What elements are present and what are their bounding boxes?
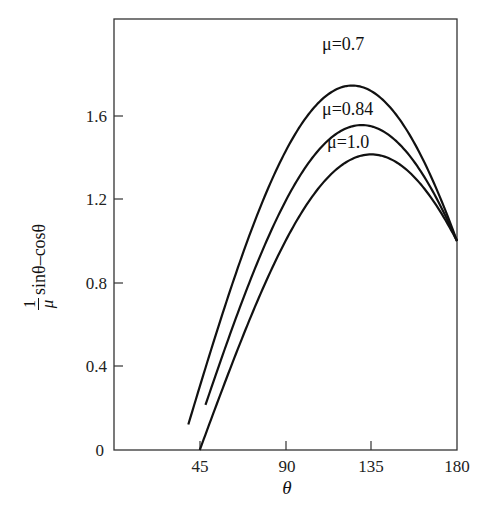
x-axis-ticks	[200, 441, 371, 450]
curve-label-mu-1.0: μ=1.0	[327, 132, 369, 152]
y-tick-1.6: 1.6	[86, 107, 107, 126]
curves-group	[188, 86, 457, 450]
y-axis-expression: sinθ–cosθ	[29, 224, 50, 295]
curve-μ-1.0	[200, 154, 457, 450]
x-axis-title: θ	[282, 477, 291, 498]
curve-μ-0.84	[205, 125, 457, 405]
y-axis-numerator: 1	[22, 298, 39, 310]
curve-label-mu-0.84: μ=0.84	[322, 99, 373, 119]
y-axis-fraction: 1 μ	[22, 298, 56, 310]
y-axis-title: 1 μ sinθ–cosθ	[22, 224, 56, 310]
chart-canvas: 0 0.4 0.8 1.2 1.6 45 90 135 180 θ μ=0.7 …	[0, 0, 497, 522]
x-tick-135: 135	[358, 457, 384, 476]
x-tick-180: 180	[444, 457, 470, 476]
y-axis-denominator: μ	[39, 300, 56, 309]
curve-label-mu-0.7: μ=0.7	[322, 34, 364, 54]
y-tick-0.8: 0.8	[86, 274, 107, 293]
y-tick-0: 0	[96, 441, 105, 460]
plot-frame	[114, 19, 457, 450]
y-tick-1.2: 1.2	[86, 190, 107, 209]
x-tick-90: 90	[279, 457, 296, 476]
y-axis-ticks	[114, 116, 123, 366]
y-tick-0.4: 0.4	[86, 357, 108, 376]
x-tick-45: 45	[192, 457, 209, 476]
